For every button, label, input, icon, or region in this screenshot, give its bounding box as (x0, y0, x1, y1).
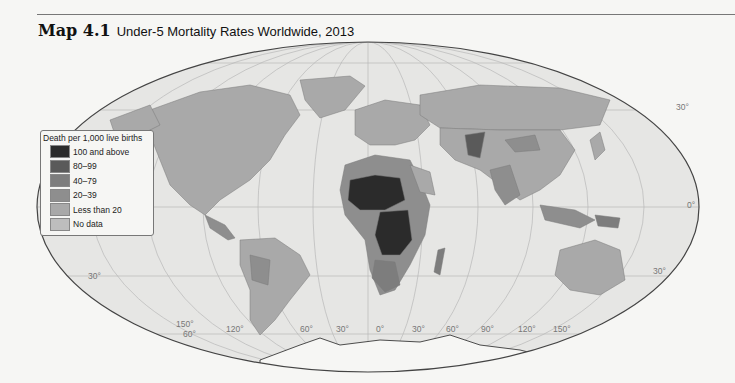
lat-label-60s: 60° (183, 329, 196, 339)
lon-label: 150° (176, 319, 194, 329)
south-america-andes (250, 255, 270, 285)
legend-item: Less than 20 (50, 203, 151, 216)
legend-swatch (50, 160, 70, 173)
legend-label: No data (73, 219, 103, 229)
legend-label: 100 and above (73, 147, 129, 157)
lon-label: 120° (518, 324, 536, 334)
legend-item: 100 and above (50, 145, 151, 158)
legend-swatch (50, 203, 70, 216)
legend-label: Less than 20 (73, 205, 122, 215)
legend-swatch (50, 189, 70, 202)
legend-label: 80–99 (73, 161, 97, 171)
lon-label: 120° (226, 324, 244, 334)
lat-label-30n: 30° (676, 102, 689, 112)
lat-label-equator: 0° (687, 200, 695, 210)
lon-label: 60° (446, 324, 459, 334)
lon-label: 150° (553, 324, 571, 334)
legend-label: 40–79 (73, 176, 97, 186)
lat-label-30s-left: 30° (88, 271, 101, 281)
lon-label: 30° (412, 324, 425, 334)
legend-swatch (50, 145, 70, 158)
legend-item: 20–39 (50, 189, 151, 202)
lon-label: 30° (336, 324, 349, 334)
legend-item: 40–79 (50, 174, 151, 187)
legend: Death per 1,000 live births 100 and abov… (40, 130, 154, 236)
lon-label: 90° (481, 324, 494, 334)
legend-swatch (50, 218, 70, 231)
legend-item: No data (50, 218, 151, 231)
lon-label: 60° (300, 324, 313, 334)
lat-label-30s-right: 30° (653, 266, 666, 276)
legend-label: 20–39 (73, 190, 97, 200)
lon-label: 0° (376, 324, 384, 334)
legend-item: 80–99 (50, 160, 151, 173)
legend-swatch (50, 174, 70, 187)
legend-title: Death per 1,000 live births (43, 133, 151, 143)
